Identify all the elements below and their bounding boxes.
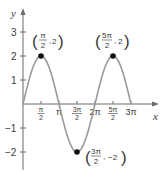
y-axis-arrow-icon [21, 8, 26, 15]
annotation-max-2: ( 5π 2 , 2 ) [95, 31, 130, 51]
x-tick-3pi-over-2-den: 2 [75, 114, 79, 121]
svg-text:2: 2 [41, 41, 46, 50]
x-tick-2pi: 2π [89, 107, 100, 117]
x-tick-5pi-over-2-num: 5π [109, 106, 118, 113]
y-tick-neg2: −2 [5, 147, 17, 158]
max-point-2 [110, 53, 116, 59]
svg-text:−2: −2 [108, 153, 118, 162]
svg-text:π: π [40, 31, 46, 40]
y-axis-label: y [10, 7, 16, 19]
annotation-max-1: ( π 2 , 2 ) [32, 31, 64, 51]
x-tick-5pi-over-2-den: 2 [111, 114, 115, 121]
min-point [74, 149, 80, 155]
svg-text:3π: 3π [91, 147, 101, 156]
x-axis-label: x [152, 110, 158, 122]
y-tick-3: 3 [11, 27, 17, 38]
svg-text:2: 2 [52, 37, 57, 46]
x-tick-3pi-over-2-num: 3π [73, 106, 82, 113]
x-tick-3pi: 3π [125, 107, 136, 117]
svg-text:,: , [103, 152, 105, 161]
annotation-min: ( 3π 2 , −2 ) [85, 147, 127, 167]
x-axis-arrow-icon [152, 102, 159, 107]
svg-text:,: , [114, 36, 116, 45]
y-tick-2: 2 [11, 51, 17, 62]
x-tick-pi-over-2-den: 2 [39, 114, 43, 121]
svg-text:2: 2 [105, 41, 110, 50]
y-tick-1: 1 [11, 75, 17, 86]
svg-text:(: ( [95, 32, 101, 51]
svg-text:2: 2 [94, 157, 99, 166]
svg-text:): ) [121, 148, 127, 167]
max-point-1 [38, 53, 44, 59]
y-tick-neg1: −1 [5, 123, 17, 134]
svg-text:5π: 5π [102, 31, 112, 40]
svg-text:): ) [58, 32, 64, 51]
sine-graph: y x 3 2 1 −1 −2 π 2 π 3π 2 2π 5π [0, 0, 164, 173]
svg-text:): ) [124, 32, 130, 51]
svg-text:(: ( [32, 32, 38, 51]
svg-text:2: 2 [118, 37, 123, 46]
svg-text:,: , [49, 36, 51, 45]
x-tick-pi-over-2-num: π [39, 106, 44, 113]
